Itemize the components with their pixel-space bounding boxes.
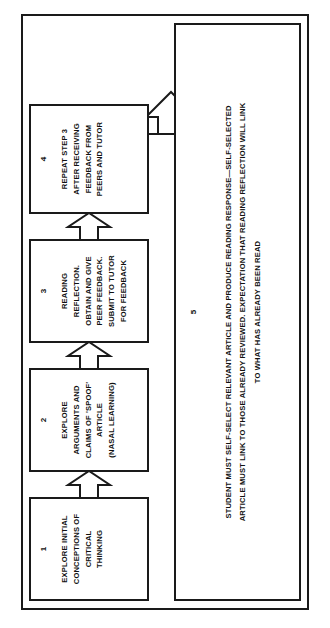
flowchart-node-1[interactable]: 1 EXPLORE INITIAL CONCEPTIONS OF CRITICA… xyxy=(29,497,149,601)
flowchart-node-5[interactable]: 5 STUDENT MUST SELF-SELECT RELEVANT ARTI… xyxy=(174,23,301,601)
flowchart-node-2[interactable]: 2 EXPLORE ARGUMENTS AND CLAIMS OF 'SPOOF… xyxy=(29,368,149,472)
node-3-text: READING REFLECTION. OBTAIN AND GIVE PEER… xyxy=(59,250,130,332)
node-2-number: 2 xyxy=(40,418,48,423)
node-2-text: EXPLORE ARGUMENTS AND CLAIMS OF 'SPOOF' … xyxy=(59,377,118,464)
connector-arrow-3-to-4 xyxy=(65,212,113,241)
node-5-text: STUDENT MUST SELF-SELECT RELEVANT ARTICL… xyxy=(222,93,265,532)
node-5-number: 5 xyxy=(190,310,198,315)
diagram-outer-frame: 1 EXPLORE INITIAL CONCEPTIONS OF CRITICA… xyxy=(21,14,309,610)
diagram-page: 1 EXPLORE INITIAL CONCEPTIONS OF CRITICA… xyxy=(0,0,330,628)
node-4-number: 4 xyxy=(40,157,48,162)
flowchart-node-4[interactable]: 4 REPEAT STEP 3 AFTER RECEIVING FEEDBACK… xyxy=(29,104,149,214)
connector-arrow-1-to-2 xyxy=(65,470,113,499)
node-4-text: REPEAT STEP 3 AFTER RECEIVING FEEDBACK F… xyxy=(59,117,106,201)
flowchart-node-3[interactable]: 3 READING REFLECTION. OBTAIN AND GIVE PE… xyxy=(29,239,149,343)
node-1-text: EXPLORE INITIAL CONCEPTIONS OF CRITICAL … xyxy=(59,509,106,589)
connector-arrow-2-to-3 xyxy=(65,341,113,370)
node-3-number: 3 xyxy=(40,289,48,294)
node-1-number: 1 xyxy=(40,547,48,552)
flowchart-canvas: 1 EXPLORE INITIAL CONCEPTIONS OF CRITICA… xyxy=(23,17,307,607)
